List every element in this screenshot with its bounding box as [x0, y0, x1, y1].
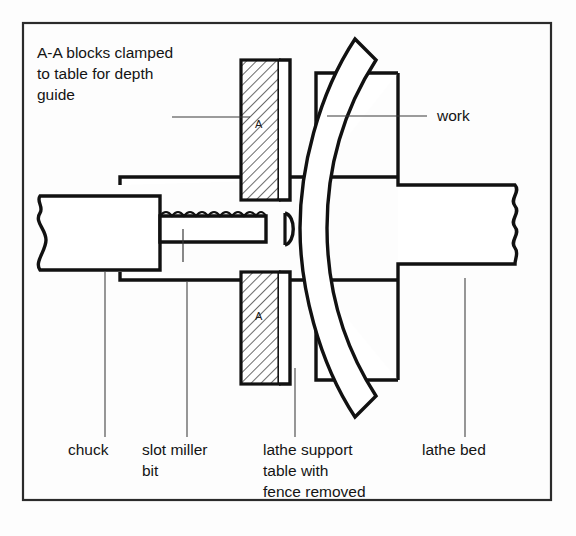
depth-guide-block-upper: A — [241, 60, 279, 200]
callout-chuck-label: chuck — [68, 441, 109, 458]
callout-slot-miller-bit-line-1: slot miller — [142, 441, 207, 458]
technical-diagram-figure: A A — [0, 0, 576, 536]
slot-miller-bit — [160, 212, 266, 262]
note-line-2: to table for depth — [37, 65, 153, 82]
callout-lathe-support-table-line-3: fence removed — [263, 483, 366, 500]
callout-work-label: work — [436, 107, 470, 124]
callout-lathe-support-table-line-1: lathe support — [263, 441, 353, 458]
chuck-body — [38, 196, 160, 270]
callout-lathe-bed-label: lathe bed — [422, 441, 486, 458]
callout-slot-miller-bit: slot miller bit — [142, 441, 207, 479]
callout-lathe-support-table-line-2: table with — [263, 462, 328, 479]
note-line-3: guide — [37, 86, 75, 103]
note-line-1: A-A blocks clamped — [37, 44, 173, 61]
milled-slot-detail — [285, 213, 293, 245]
callout-slot-miller-bit-line-2: bit — [142, 462, 159, 479]
note-top-left: A-A blocks clamped to table for depth gu… — [37, 44, 173, 103]
diagram-canvas: A A — [0, 0, 576, 536]
depth-guide-block-lower: A — [241, 272, 279, 384]
callout-lathe-support-table: lathe support table with fence removed — [263, 441, 366, 500]
block-marker-upper: A — [255, 118, 263, 130]
block-marker-lower: A — [255, 310, 263, 322]
